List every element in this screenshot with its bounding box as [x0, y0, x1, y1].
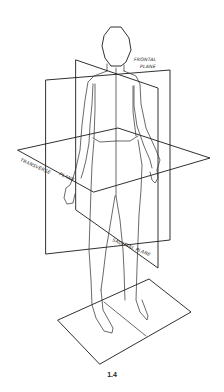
figure-left-arm-inner	[81, 84, 93, 178]
figure-waist	[93, 136, 138, 142]
figure-right-arm-inner	[134, 86, 152, 168]
figure-right-leg	[136, 140, 148, 320]
label-transverse-plane: PLANE	[59, 171, 75, 182]
anatomical-planes-diagram: FRONTAL PLANE TRANSVERSE PLANE SAGITTAL …	[0, 0, 224, 392]
sagittal-plane	[76, 60, 158, 268]
frontal-plane	[46, 70, 170, 254]
transverse-plane	[18, 128, 210, 192]
figure-head	[102, 27, 131, 66]
diagram-canvas: FRONTAL PLANE TRANSVERSE PLANE SAGITTAL …	[0, 0, 224, 392]
label-sagittal: SAGITTAL PLANE	[112, 237, 152, 257]
figure-right-inner-leg	[116, 196, 125, 300]
figure-right-hand	[150, 170, 158, 183]
figure-left-inner-leg	[101, 196, 115, 290]
human-figure	[64, 27, 160, 333]
figure-left-hand	[64, 178, 75, 204]
plane-labels: FRONTAL PLANE TRANSVERSE PLANE SAGITTAL …	[20, 57, 157, 257]
label-frontal-line2: PLANE	[140, 64, 156, 69]
platform-divider	[104, 302, 146, 336]
figure-caption: 1.4	[0, 371, 224, 378]
figure-torso-left	[94, 84, 95, 138]
frontal-plane-outline	[46, 70, 170, 254]
figure-right-arm-outer	[124, 71, 160, 170]
label-frontal-line1: FRONTAL	[134, 57, 157, 62]
sagittal-plane-outline	[76, 60, 158, 268]
transverse-plane-outline	[18, 128, 210, 192]
